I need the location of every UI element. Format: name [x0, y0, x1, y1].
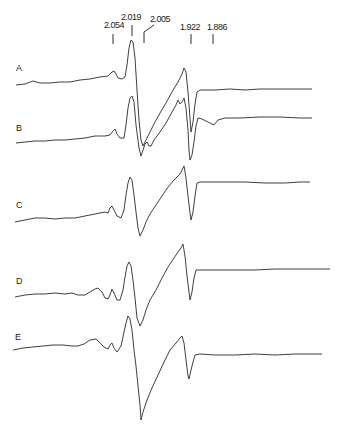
- g-value-label: 2.005: [150, 14, 171, 24]
- spectrum-traces: [13, 40, 330, 420]
- trace-label: C: [16, 200, 23, 210]
- g-value-label: 2.019: [121, 12, 142, 22]
- g-value-label: 1.922: [180, 22, 201, 32]
- g-value-label: 1.886: [207, 22, 228, 32]
- spectrum-trace-d: [15, 244, 330, 326]
- trace-label: B: [16, 123, 22, 133]
- trace-label: A: [16, 63, 22, 73]
- trace-label: D: [16, 276, 23, 286]
- g-value-tick: [144, 25, 154, 43]
- trace-labels: ABCDE: [15, 63, 23, 342]
- trace-label: E: [15, 332, 21, 342]
- spectrum-trace-c: [15, 166, 310, 236]
- spectrum-trace-e: [13, 316, 322, 420]
- epr-spectra-chart: 2.0542.0192.0051.9221.886 ABCDE: [0, 0, 341, 432]
- spectrum-trace-a: [16, 40, 312, 146]
- g-value-markers: 2.0542.0192.0051.9221.886: [104, 12, 228, 44]
